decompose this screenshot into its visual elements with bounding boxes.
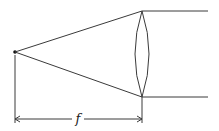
ray-upper xyxy=(15,11,142,52)
ray-lower xyxy=(15,52,142,97)
focal-length-label: f xyxy=(75,111,83,126)
convex-lens xyxy=(135,11,149,97)
lens-diagram: f xyxy=(0,0,219,131)
focal-length-dimension: f xyxy=(15,111,142,126)
